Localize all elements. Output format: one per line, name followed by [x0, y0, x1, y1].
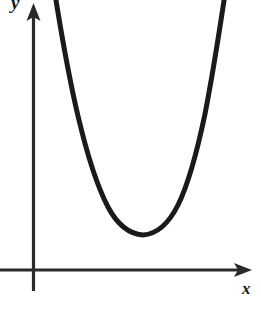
y-axis-label: y	[11, 0, 19, 12]
x-axis-label: x	[242, 280, 251, 297]
parabola-figure: y x	[0, 0, 261, 309]
graph-canvas	[0, 0, 261, 309]
parabola-curve	[55, 0, 225, 235]
